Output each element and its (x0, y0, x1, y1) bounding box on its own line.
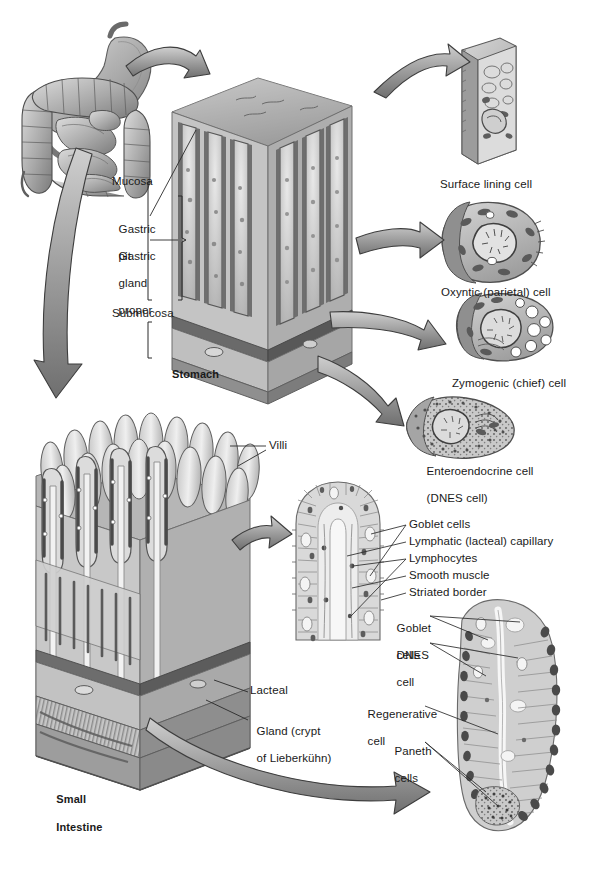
label-paneth-line1: Paneth (395, 745, 432, 757)
label-dnes-line2: cell (397, 676, 415, 688)
label-submucosa: Submucosa (112, 307, 174, 321)
label-goblet-cells-villus: Goblet cells (409, 518, 470, 532)
label-paneth-cells: Paneth cells (388, 731, 432, 785)
label-dnes-line1: DNES (397, 649, 429, 661)
label-zymogenic-cell: Zymogenic (chief) cell (452, 377, 566, 391)
label-enteroendocrine-cell: Enteroendocrine cell (DNES cell) (420, 451, 533, 505)
label-enteroendocrine-line2: (DNES cell) (427, 492, 488, 504)
crypt-section-inset (457, 600, 560, 831)
label-small-intestine: Small Intestine (50, 778, 102, 834)
label-gland-line1: Gland (crypt (257, 725, 321, 737)
label-gastric-gland-proper: Gastric gland proper (112, 236, 156, 317)
label-villi: Villi (269, 439, 287, 453)
label-gastric-gland-line1: Gastric (119, 250, 156, 262)
figure-canvas: Mucosa Gastric pit Gastric gland proper … (0, 0, 591, 872)
label-lacteal: Lacteal (250, 684, 288, 698)
label-striated-border: Striated border (409, 586, 487, 600)
arrow-block-to-oxyntic-cell (356, 222, 444, 258)
oxyntic-cell-inset (442, 202, 545, 283)
label-gastric-gland-line2: gland (119, 277, 148, 289)
label-surface-lining-cell: Surface lining cell (440, 178, 532, 192)
label-dnes-cell: DNES cell (390, 635, 429, 689)
label-goblet-crypt-line1: Goblet (397, 622, 431, 634)
label-small-intestine-line2: Intestine (56, 821, 102, 833)
arrow-block-to-surface-lining-cell (374, 44, 470, 98)
label-gland-crypt-of-lieberkuhn: Gland (crypt of Lieberkühn) (250, 711, 332, 765)
label-mucosa: Mucosa (112, 175, 153, 189)
label-oxyntic-cell: Oxyntic (parietal) cell (441, 286, 551, 300)
surface-lining-cell-inset (462, 38, 516, 164)
label-gastric-pit-line1: Gastric (119, 223, 156, 235)
label-paneth-line2: cells (395, 772, 419, 784)
label-small-intestine-line1: Small (56, 793, 86, 805)
label-lymphatic-capillary: Lymphatic (lacteal) capillary (409, 535, 553, 549)
villus-section-inset (292, 482, 384, 641)
label-enteroendocrine-line1: Enteroendocrine cell (427, 465, 534, 477)
zymogenic-cell-inset (457, 293, 553, 361)
label-stomach: Stomach (172, 368, 219, 382)
enteroendocrine-cell-inset (407, 397, 514, 458)
label-regenerative-line1: Regenerative (368, 708, 438, 720)
label-lymphocytes: Lymphocytes (409, 552, 477, 566)
stomach-mucosa-block (172, 78, 352, 404)
label-smooth-muscle: Smooth muscle (409, 569, 490, 583)
small-intestine-block (36, 413, 261, 790)
arrow-block-to-enteroendocrine-cell (318, 356, 404, 426)
label-regenerative-line2: cell (368, 735, 386, 747)
label-gland-line2: of Lieberkühn) (257, 752, 332, 764)
